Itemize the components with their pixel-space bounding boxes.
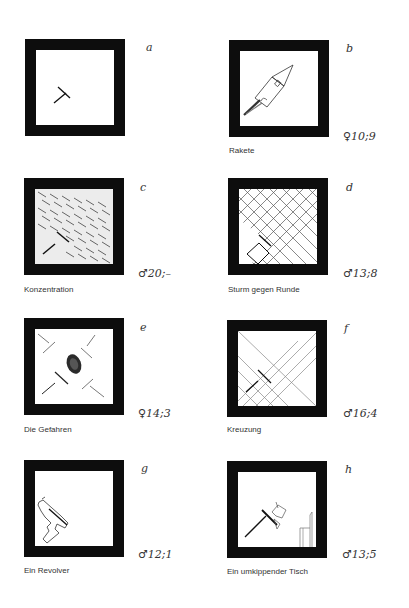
dash-stroke <box>102 258 110 263</box>
dash-stroke <box>90 208 98 213</box>
sex-age-label: ♀10;9 <box>343 130 376 143</box>
dash-stroke <box>78 206 86 211</box>
dash-stroke <box>66 252 74 257</box>
sex-age-label: ♂12;1 <box>138 548 173 561</box>
drawing-area <box>238 331 316 406</box>
caption: Konzentration <box>24 285 73 294</box>
dash-stroke <box>38 192 46 197</box>
dash-stroke <box>74 214 82 219</box>
panel-letter: g <box>141 462 148 475</box>
dash-stroke <box>38 208 46 213</box>
drawing-frame <box>24 178 124 275</box>
panel-letter: e <box>140 321 147 334</box>
dash-stroke <box>54 202 62 207</box>
dark-stroke <box>43 244 55 254</box>
panel-letter: d <box>346 181 353 194</box>
drawing-area <box>239 189 317 264</box>
grid-line <box>296 189 317 264</box>
drawing-area <box>238 472 316 547</box>
caption: Die Gefahren <box>24 425 72 434</box>
dash-stroke <box>90 256 98 261</box>
dash-stroke <box>42 200 50 205</box>
dash-stroke <box>98 234 106 239</box>
drawing-frame <box>229 40 329 137</box>
dash-stroke <box>86 248 94 253</box>
sex-age-label: ♂13;5 <box>342 548 377 561</box>
grid-line <box>283 189 317 264</box>
sex-age-label: ♂13;8 <box>343 267 378 280</box>
dash-stroke <box>66 204 74 209</box>
two-strokes-drawing <box>36 50 114 125</box>
drawing-frame <box>227 320 327 417</box>
panel-letter: f <box>344 322 348 335</box>
drawing-area <box>36 50 114 125</box>
dash-stroke <box>102 242 110 247</box>
dash-stroke <box>98 250 106 255</box>
caption: Ein Revolver <box>24 566 69 575</box>
drawing-area <box>35 189 113 264</box>
panel-letter: b <box>346 42 353 55</box>
grid-line <box>309 189 317 264</box>
dash-stroke <box>74 230 82 235</box>
dash-stroke <box>50 210 58 215</box>
dashes-drawing <box>35 189 113 264</box>
dash-stroke <box>86 232 94 237</box>
dash-stroke <box>62 196 70 201</box>
sex-age-label: ♂20;– <box>138 267 171 280</box>
rocket-drawing <box>240 51 318 126</box>
drawing-frame <box>228 178 328 275</box>
dash-stroke <box>86 200 94 205</box>
dash-stroke <box>50 194 58 199</box>
dash-stroke <box>78 238 86 243</box>
revolver-drawing <box>35 471 113 546</box>
drawing-frame <box>24 460 124 557</box>
dangers-drawing <box>35 329 113 404</box>
dash-stroke <box>74 198 82 203</box>
dash-stroke <box>102 226 110 231</box>
dash-stroke <box>86 216 94 221</box>
drawing-frame <box>227 461 327 558</box>
dash-stroke <box>62 212 70 217</box>
caption: Ein umkippender Tisch <box>227 567 308 576</box>
caption: Sturm gegen Runde <box>228 285 300 294</box>
dash-stroke <box>78 254 86 259</box>
drawing-frame <box>25 39 125 136</box>
drawing-frame <box>24 318 124 415</box>
dash-stroke <box>90 240 98 245</box>
dash-stroke <box>42 216 50 221</box>
panel-letter: c <box>140 181 146 194</box>
drawing-area <box>35 471 113 546</box>
dash-stroke <box>54 218 62 223</box>
dash-stroke <box>90 224 98 229</box>
drawing-area <box>35 329 113 404</box>
dash-stroke <box>50 226 58 231</box>
sex-age-label: ♂16;4 <box>343 407 378 420</box>
dash-stroke <box>98 202 106 207</box>
tipping-table-drawing <box>238 472 316 547</box>
dash-stroke <box>78 222 86 227</box>
panel-letter: h <box>345 463 352 476</box>
dash-stroke <box>66 220 74 225</box>
sex-age-label: ♀14;3 <box>138 407 171 420</box>
caption: Rakete <box>229 146 254 155</box>
dash-stroke <box>38 224 46 229</box>
grid-drawing <box>239 189 317 264</box>
dash-stroke <box>74 246 82 251</box>
caption: Kreuzung <box>227 425 261 434</box>
drawing-area <box>240 51 318 126</box>
dash-stroke <box>62 228 70 233</box>
dash-stroke <box>102 210 110 215</box>
grid-line <box>270 189 317 264</box>
crossing-drawing <box>238 331 316 406</box>
dash-stroke <box>98 218 106 223</box>
panel-letter: a <box>146 41 153 54</box>
